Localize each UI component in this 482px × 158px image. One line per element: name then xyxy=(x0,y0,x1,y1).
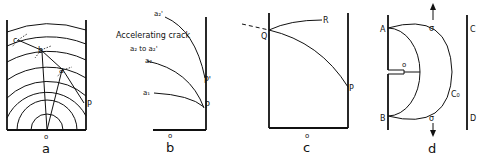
panel-b: a₂' Accelerating crack a₂ to a₂' a₂ a₁ P… xyxy=(116,10,211,155)
arrow-down-icon xyxy=(430,130,436,137)
figure-canvas: c b a P o a a₂' Accelerating crack a₂ to… xyxy=(0,0,482,158)
label-Pprime: P' xyxy=(204,76,211,85)
label-origin: o xyxy=(44,133,48,141)
panel-d: A B C D o C₀ σ σ d xyxy=(380,3,476,156)
label-a1: a₁ xyxy=(143,89,150,97)
curve-a2 xyxy=(147,61,204,108)
label-P: P xyxy=(205,101,210,110)
crack-PQ xyxy=(269,30,348,87)
caption-b: b xyxy=(166,140,174,155)
caption-a: a xyxy=(42,141,50,156)
panel-a: c b a P o a xyxy=(7,20,92,156)
label-origin: o xyxy=(168,132,172,140)
caption-d: d xyxy=(428,141,436,156)
label-a2prime: a₂' xyxy=(154,10,163,18)
annotation-range: a₂ to a₂' xyxy=(130,45,158,53)
label-Q: Q xyxy=(261,32,267,41)
label-a-point: a xyxy=(59,66,64,75)
edge-notch xyxy=(388,70,404,74)
label-sigma-top: σ xyxy=(429,24,434,33)
label-P: P xyxy=(87,100,92,109)
dashed-extension xyxy=(242,24,269,30)
label-b: b xyxy=(38,46,43,55)
panel-c: R Q P o c xyxy=(242,13,354,155)
label-sigma-bottom: σ xyxy=(429,114,434,123)
label-origin: o xyxy=(402,61,406,69)
label-c: c xyxy=(13,36,17,45)
arrow-up-icon xyxy=(430,3,436,10)
curve-a2prime xyxy=(165,17,205,78)
annotation-accelerating-crack: Accelerating crack xyxy=(116,31,190,40)
label-P: P xyxy=(349,84,354,93)
label-B: B xyxy=(380,114,386,123)
label-C: C xyxy=(470,25,476,34)
label-origin: o xyxy=(305,132,309,140)
curve-a1 xyxy=(154,93,204,107)
branch-QR xyxy=(269,20,322,30)
ray-ob xyxy=(42,52,47,130)
caption-c: c xyxy=(303,140,310,155)
label-A: A xyxy=(380,25,386,34)
label-R: R xyxy=(323,16,329,25)
label-D: D xyxy=(470,114,476,123)
label-C0: C₀ xyxy=(451,90,460,99)
label-a2: a₂ xyxy=(145,57,152,65)
